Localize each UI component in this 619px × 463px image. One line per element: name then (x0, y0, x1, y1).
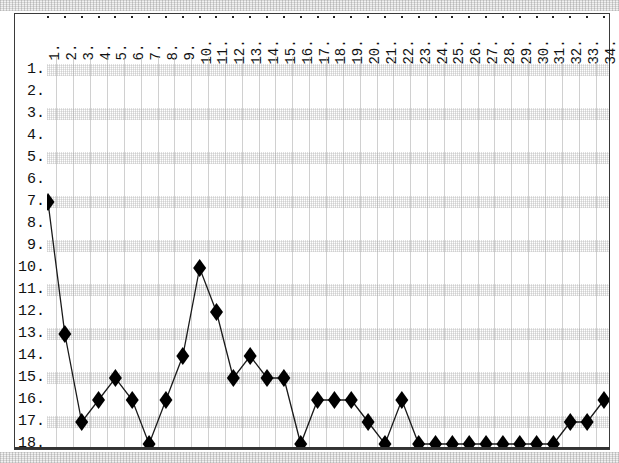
x-tick-label: 3. (75, 14, 89, 56)
x-tick-label: 29. (513, 14, 527, 56)
x-tick-label: 15. (277, 14, 291, 56)
x-tick-label: 12. (226, 14, 240, 56)
x-tick-dot (131, 16, 133, 18)
x-tick-dot (603, 16, 605, 18)
x-tick-label: 16. (294, 14, 308, 56)
x-tick-label: 14. (260, 14, 274, 56)
x-tick-label: 17. (311, 14, 325, 56)
x-tick-label: 23. (412, 14, 426, 56)
x-tick-dot (81, 16, 83, 18)
y-axis-tick-labels: 1.2.3.4.5.6.7.8.9.10.11.12.13.14.15.16.1… (15, 14, 47, 449)
x-tick-label: 9. (176, 14, 190, 56)
data-point-marker (210, 303, 223, 321)
top-texture-strip (0, 0, 619, 11)
line-series (47, 57, 609, 449)
data-point-marker (159, 391, 172, 409)
y-tick-label: 16. (15, 389, 45, 411)
x-tick-label: 32. (563, 14, 577, 56)
x-tick-label: 27. (479, 14, 493, 56)
y-tick-label: 13. (15, 323, 45, 345)
bottom-texture-strip (0, 452, 619, 463)
x-tick-dot (199, 16, 201, 18)
y-tick-label: 7. (15, 191, 45, 213)
y-tick-label: 14. (15, 345, 45, 367)
data-point-marker (176, 347, 189, 365)
x-tick-label: 18. (327, 14, 341, 56)
data-point-marker (47, 193, 55, 211)
x-tick-dot (569, 16, 571, 18)
x-tick-dot (367, 16, 369, 18)
x-tick-dot (300, 16, 302, 18)
x-tick-label: 4. (92, 14, 106, 56)
y-tick-label: 4. (15, 125, 45, 147)
data-point-marker (58, 325, 71, 343)
x-tick-dot (266, 16, 268, 18)
x-tick-label: 13. (243, 14, 257, 56)
y-tick-label: 9. (15, 235, 45, 257)
x-tick-label: 1. (41, 14, 55, 56)
x-tick-dot (215, 16, 217, 18)
x-tick-dot (317, 16, 319, 18)
x-tick-dot (485, 16, 487, 18)
x-tick-label: 19. (344, 14, 358, 56)
x-tick-label: 8. (159, 14, 173, 56)
y-tick-label: 10. (15, 257, 45, 279)
x-tick-label: 30. (530, 14, 544, 56)
data-point-marker (328, 391, 341, 409)
x-tick-dot (98, 16, 100, 18)
x-tick-dot (47, 16, 49, 18)
data-point-marker (311, 391, 324, 409)
x-tick-label: 22. (395, 14, 409, 56)
y-tick-label: 8. (15, 213, 45, 235)
y-tick-label: 12. (15, 301, 45, 323)
x-tick-label: 24. (429, 14, 443, 56)
x-tick-dot (283, 16, 285, 18)
x-tick-dot (165, 16, 167, 18)
y-tick-label: 5. (15, 147, 45, 169)
x-tick-label: 26. (462, 14, 476, 56)
x-tick-dot (182, 16, 184, 18)
x-tick-dot (418, 16, 420, 18)
x-tick-label: 11. (209, 14, 223, 56)
x-tick-label: 33. (580, 14, 594, 56)
x-tick-label: 10. (193, 14, 207, 56)
x-tick-dot (552, 16, 554, 18)
x-tick-label: 20. (361, 14, 375, 56)
x-tick-label: 2. (58, 14, 72, 56)
x-tick-dot (114, 16, 116, 18)
data-point-marker (193, 259, 206, 277)
x-axis-tick-labels: 1.2.3.4.5.6.7.8.9.10.11.12.13.14.15.16.1… (47, 14, 609, 56)
y-tick-label: 3. (15, 103, 45, 125)
y-tick-label: 11. (15, 279, 45, 301)
x-tick-dot (586, 16, 588, 18)
x-tick-dot (502, 16, 504, 18)
x-tick-label: 7. (142, 14, 156, 56)
data-point-marker (277, 369, 290, 387)
x-tick-dot (333, 16, 335, 18)
x-tick-dot (249, 16, 251, 18)
x-tick-dot (148, 16, 150, 18)
x-tick-dot (519, 16, 521, 18)
x-tick-dot (536, 16, 538, 18)
y-tick-label: 15. (15, 367, 45, 389)
y-tick-label: 6. (15, 169, 45, 191)
x-tick-label: 28. (496, 14, 510, 56)
plot-area (47, 57, 609, 449)
y-tick-label: 17. (15, 411, 45, 433)
x-tick-dot (384, 16, 386, 18)
x-tick-dot (451, 16, 453, 18)
x-tick-dot (64, 16, 66, 18)
x-tick-dot (350, 16, 352, 18)
x-tick-dot (468, 16, 470, 18)
data-point-marker (395, 391, 408, 409)
x-tick-dot (435, 16, 437, 18)
y-tick-label: 2. (15, 81, 45, 103)
y-tick-label: 1. (15, 59, 45, 81)
x-tick-label: 5. (108, 14, 122, 56)
x-axis-baseline (15, 447, 610, 449)
chart-screenshot: 1.2.3.4.5.6.7.8.9.10.11.12.13.14.15.16.1… (0, 0, 619, 463)
x-tick-label: 25. (445, 14, 459, 56)
x-tick-label: 6. (125, 14, 139, 56)
x-tick-dot (401, 16, 403, 18)
x-tick-label: 31. (546, 14, 560, 56)
